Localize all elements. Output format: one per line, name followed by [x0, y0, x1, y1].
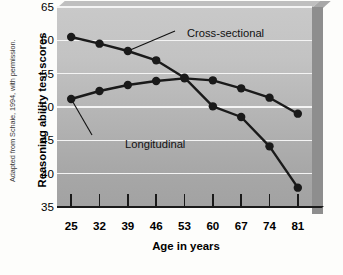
x-tick-label: 81 [285, 219, 311, 232]
annotation-leader-line [128, 31, 175, 51]
slab-right-face [312, 7, 323, 214]
annotation-longitudinal: Longitudinal [125, 138, 185, 150]
y-tick-label: 50 [28, 100, 54, 113]
data-point-marker [95, 39, 103, 47]
y-tick-label: 55 [28, 67, 54, 80]
data-point-marker [265, 93, 273, 101]
data-point-marker [294, 183, 302, 191]
y-tick-label: 45 [28, 133, 54, 146]
source-credit: Adapted from Schaie, 1994, with permissi… [8, 17, 17, 182]
y-axis-tick-labels: 65605550454035 [22, 0, 54, 230]
x-tick [184, 194, 186, 206]
data-point-marker [294, 109, 302, 117]
x-tick-label: 67 [228, 219, 254, 232]
x-tick [297, 194, 299, 206]
y-tick-label: 40 [28, 167, 54, 180]
x-tick-label: 53 [172, 219, 198, 232]
x-tick-label: 25 [58, 219, 84, 232]
x-tick [269, 194, 271, 206]
data-point-marker [152, 77, 160, 85]
y-tick-label: 35 [28, 200, 54, 213]
x-axis-title: Age in years [57, 240, 315, 252]
data-point-marker [124, 47, 132, 55]
chart-figure: Adapted from Schaie, 1994, with permissi… [0, 0, 343, 275]
series-line [71, 78, 298, 113]
data-point-marker [180, 74, 188, 82]
x-tick [155, 194, 157, 206]
data-point-marker [209, 102, 217, 110]
x-tick-label: 74 [257, 219, 283, 232]
y-tick-label: 65 [28, 0, 54, 13]
annotation-cross-sectional: Cross-sectional [187, 27, 264, 39]
data-point-marker [124, 81, 132, 89]
data-point-marker [67, 33, 75, 41]
x-axis-tick-labels: 253239465360677481 [57, 219, 329, 237]
x-tick [240, 194, 242, 206]
data-point-marker [237, 84, 245, 92]
data-point-marker [209, 76, 217, 84]
x-axis-line [57, 206, 313, 208]
series-layer [57, 7, 312, 207]
data-point-marker [67, 95, 75, 103]
x-tick [212, 194, 214, 206]
x-tick-label: 60 [200, 219, 226, 232]
data-point-marker [152, 56, 160, 64]
plot-area-3d-wrapper: Cross-sectional Longitudinal [57, 7, 329, 214]
data-point-marker [95, 87, 103, 95]
series-line [71, 37, 298, 188]
y-tick-label: 60 [28, 33, 54, 46]
data-point-marker [237, 113, 245, 121]
x-tick-label: 46 [143, 219, 169, 232]
plot-area [57, 7, 312, 207]
x-tick-label: 32 [87, 219, 113, 232]
x-tick [99, 194, 101, 206]
annotation-leader-line [71, 99, 92, 135]
x-tick-label: 39 [115, 219, 141, 232]
x-axis-line-3d [310, 206, 324, 208]
x-tick [127, 194, 129, 206]
data-point-marker [265, 142, 273, 150]
x-tick [70, 194, 72, 206]
